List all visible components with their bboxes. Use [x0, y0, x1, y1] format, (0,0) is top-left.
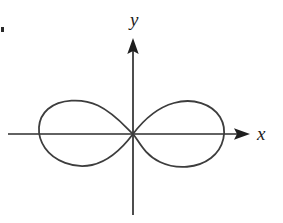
x-axis-label: x: [257, 124, 265, 143]
edge-artifact-mark: [1, 27, 4, 32]
lemniscate-figure: y x: [0, 0, 283, 223]
figure-canvas: [0, 0, 283, 223]
y-axis-label: y: [130, 10, 138, 29]
